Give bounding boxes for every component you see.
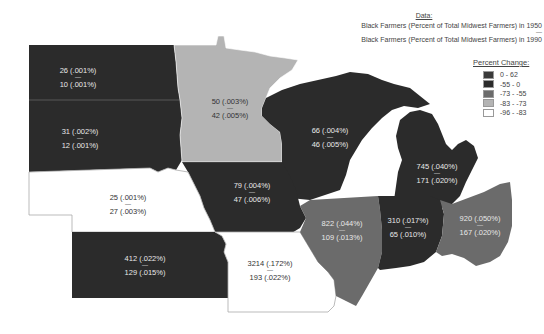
value-1990: 109 (.013%) bbox=[322, 233, 363, 242]
label-north-dakota: 26 (.001%) — 10 (.001%) bbox=[60, 66, 97, 89]
midwest-map bbox=[0, 0, 544, 334]
legend-label: 0 - 62 bbox=[500, 71, 518, 78]
label-kansas: 412 (.022%) — 129 (.015%) bbox=[125, 254, 166, 277]
label-wisconsin: 66 (.004%) — 46 (.005%) bbox=[312, 126, 349, 149]
value-1990: 171 (.020%) bbox=[417, 176, 458, 185]
legend-item: -73 - -55 bbox=[473, 89, 529, 99]
state-north-dakota bbox=[29, 45, 180, 100]
data-line-1950: Black Farmers (Percent of Total Midwest … bbox=[304, 21, 544, 30]
value-1990: 167 (.020%) bbox=[460, 228, 501, 237]
legend-swatch bbox=[483, 99, 494, 107]
value-1990: 65 (.010%) bbox=[390, 230, 427, 239]
legend-item: -55 - 0 bbox=[473, 80, 529, 90]
label-illinois: 822 (.044%) — 109 (.013%) bbox=[322, 219, 363, 242]
legend-title: Percent Change: bbox=[473, 58, 529, 67]
data-line-1990: Black Farmers (Percent of Total Midwest … bbox=[304, 35, 544, 44]
data-title: Data: bbox=[304, 12, 544, 19]
label-missouri: 3214 (.172%) — 193 (.022%) bbox=[247, 259, 292, 282]
legend-item: -96 - -83 bbox=[473, 108, 529, 118]
legend-label: -96 - -83 bbox=[500, 109, 526, 116]
legend-swatch bbox=[483, 71, 494, 79]
label-nebraska: 25 (.001%) — 27 (.003%) bbox=[110, 193, 147, 216]
label-michigan: 745 (.040%) — 171 (.020%) bbox=[417, 162, 458, 185]
value-1990: 46 (.005%) bbox=[312, 140, 349, 149]
label-indiana: 310 (.017%) — 65 (.010%) bbox=[388, 216, 429, 239]
label-minnesota: 50 (.003%) — 42 (.005%) bbox=[212, 97, 249, 120]
value-1990: 12 (.001%) bbox=[62, 141, 99, 150]
legend-item: -83 - -73 bbox=[473, 99, 529, 109]
legend: Percent Change: 0 - 62 -55 - 0 -73 - -55… bbox=[473, 58, 529, 118]
data-header: Data: Black Farmers (Percent of Total Mi… bbox=[304, 12, 544, 44]
legend-swatch bbox=[483, 80, 494, 88]
legend-label: -55 - 0 bbox=[500, 81, 520, 88]
legend-label: -73 - -55 bbox=[500, 90, 526, 97]
legend-swatch bbox=[483, 90, 494, 98]
legend-item: 0 - 62 bbox=[473, 70, 529, 80]
state-south-dakota bbox=[29, 100, 182, 172]
legend-label: -83 - -73 bbox=[500, 100, 526, 107]
value-1990: 129 (.015%) bbox=[125, 268, 166, 277]
value-1990: 10 (.001%) bbox=[60, 80, 97, 89]
label-iowa: 79 (.004%) — 47 (.006%) bbox=[234, 181, 271, 204]
value-1990: 27 (.003%) bbox=[110, 207, 147, 216]
value-1990: 193 (.022%) bbox=[250, 273, 291, 282]
label-south-dakota: 31 (.002%) — 12 (.001%) bbox=[62, 127, 99, 150]
label-ohio: 920 (.050%) — 167 (.020%) bbox=[460, 214, 501, 237]
value-1990: 47 (.006%) bbox=[234, 195, 271, 204]
legend-swatch bbox=[483, 109, 494, 117]
value-1990: 42 (.005%) bbox=[212, 111, 249, 120]
